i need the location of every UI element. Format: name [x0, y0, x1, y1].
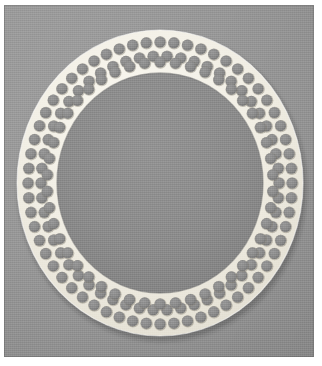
perforation-hole	[232, 292, 243, 303]
perforation-hole	[182, 315, 193, 326]
perforation-hole	[96, 281, 107, 292]
perforation-hole	[168, 37, 179, 48]
perforation-hole	[29, 134, 40, 145]
perforation-hole	[73, 85, 84, 96]
perforation-hole	[56, 272, 67, 283]
perforation-hole	[54, 122, 65, 133]
perforation-hole	[253, 83, 264, 94]
perforation-hole	[261, 95, 272, 106]
perforation-hole	[255, 122, 266, 133]
perforation-hole	[48, 95, 59, 106]
perforation-hole	[208, 306, 219, 317]
perforation-hole	[213, 281, 224, 292]
perforation-hole	[54, 233, 65, 244]
perforation-hole	[269, 248, 280, 259]
photograph	[4, 5, 314, 357]
perforation-hole	[265, 202, 276, 213]
perforation-hole	[66, 282, 77, 293]
perforation-hole	[23, 178, 34, 189]
perforation-hole	[247, 108, 258, 119]
perforation-hole	[124, 294, 135, 305]
perforated-annular-plate	[4, 5, 314, 357]
perforation-hole	[200, 288, 211, 299]
perforation-hole	[170, 297, 181, 308]
perforation-hole	[101, 306, 112, 317]
perforation-hole	[267, 169, 278, 180]
perforation-hole	[185, 61, 196, 72]
perforation-hole	[237, 95, 248, 106]
perforation-hole	[124, 61, 135, 72]
perforation-hole	[83, 84, 94, 95]
perforation-hole	[269, 107, 280, 118]
perforation-hole	[275, 120, 286, 131]
perforation-hole	[141, 318, 152, 329]
perforation-hole	[226, 271, 237, 282]
perforation-hole	[221, 300, 232, 311]
perforation-hole	[261, 260, 272, 271]
perforation-hole	[155, 299, 166, 310]
perforation-hole	[127, 315, 138, 326]
perforation-hole	[286, 163, 297, 174]
perforation-hole	[48, 260, 59, 271]
perforation-hole	[265, 153, 276, 164]
figure-root	[0, 0, 322, 366]
perforation-hole	[40, 107, 51, 118]
perforation-hole	[213, 74, 224, 85]
perforation-hole	[200, 67, 211, 78]
perforation-hole	[127, 40, 138, 51]
perforation-hole	[141, 37, 152, 48]
perforation-hole	[287, 178, 298, 189]
perforation-hole	[221, 55, 232, 66]
perforation-hole	[34, 120, 45, 131]
perforation-hole	[48, 218, 59, 229]
perforation-hole	[40, 248, 51, 259]
perforation-hole	[77, 63, 88, 74]
perforation-hole	[25, 148, 36, 159]
perforation-hole	[139, 58, 150, 69]
perforation-hole	[243, 73, 254, 84]
perforation-hole	[62, 247, 73, 258]
perforation-hole	[62, 108, 73, 119]
perforation-hole	[72, 260, 83, 271]
perforation-hole	[66, 73, 77, 84]
perforation-hole	[253, 272, 264, 283]
perforation-hole	[155, 37, 166, 48]
perforation-hole	[247, 247, 258, 258]
perforation-hole	[208, 49, 219, 60]
perforation-hole	[155, 319, 166, 330]
perforation-hole	[275, 235, 286, 246]
perforation-hole	[170, 58, 181, 69]
perforation-hole	[56, 83, 67, 94]
perforation-hole	[89, 55, 100, 66]
perforation-hole	[25, 207, 36, 218]
perforation-hole	[101, 49, 112, 60]
perforation-hole	[109, 288, 120, 299]
perforation-hole	[77, 292, 88, 303]
perforation-hole	[168, 318, 179, 329]
perforation-hole	[155, 57, 166, 68]
perforation-hole	[286, 192, 297, 203]
perforation-hole	[29, 221, 40, 232]
perforation-hole	[34, 235, 45, 246]
perforation-hole	[255, 233, 266, 244]
perforation-hole	[185, 294, 196, 305]
perforation-hole	[280, 221, 291, 232]
perforation-hole	[195, 43, 206, 54]
perforation-hole	[42, 169, 53, 180]
perforation-hole	[96, 74, 107, 85]
perforation-hole	[48, 137, 59, 148]
plate-inner-opening	[57, 73, 263, 293]
perforation-hole	[226, 84, 237, 95]
perforation-hole	[44, 202, 55, 213]
perforation-hole	[114, 312, 125, 323]
perforation-hole	[23, 192, 34, 203]
perforation-hole	[83, 271, 94, 282]
perforation-hole	[284, 207, 295, 218]
perforation-hole	[195, 312, 206, 323]
perforation-hole	[284, 148, 295, 159]
perforation-hole	[280, 134, 291, 145]
perforation-hole	[139, 297, 150, 308]
perforation-hole	[44, 153, 55, 164]
perforation-hole	[114, 43, 125, 54]
perforation-hole	[182, 40, 193, 51]
